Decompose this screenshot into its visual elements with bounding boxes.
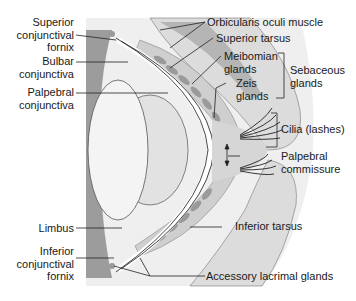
label-line: glands	[290, 77, 345, 90]
label-line: Superior tarsus	[216, 32, 291, 45]
label-line: commissure	[281, 163, 340, 176]
label-meibomian-glands: Meibomian glands	[224, 50, 278, 75]
label-line: conjunctival	[17, 258, 74, 271]
label-sebaceous-glands: Sebaceous glands	[290, 64, 345, 89]
label-line: Palpebral	[281, 150, 340, 163]
label-line: Superior	[17, 16, 74, 29]
label-cilia: Cilia (lashes)	[281, 123, 345, 136]
label-line: fornix	[17, 270, 74, 283]
label-line: Sebaceous	[290, 64, 345, 77]
label-line: conjunctiva	[19, 99, 74, 112]
label-line: Bulbar	[19, 55, 74, 68]
label-line: glands	[236, 90, 268, 103]
label-palpebral-conjunctiva: Palpebral conjunctiva	[19, 86, 74, 111]
label-line: Palpebral	[19, 86, 74, 99]
label-line: Accessory lacrimal glands	[206, 270, 333, 283]
label-line: conjunctival	[17, 29, 74, 42]
label-accessory-lacrimal-glands: Accessory lacrimal glands	[206, 270, 333, 283]
label-line: Zeis	[236, 77, 268, 90]
label-orbicularis-oculi-muscle: Orbicularis oculi muscle	[207, 16, 323, 29]
label-line: Inferior tarsus	[235, 220, 302, 233]
label-superior-conjunctival-fornix: Superior conjunctival fornix	[17, 16, 74, 54]
label-line: Inferior	[17, 245, 74, 258]
label-palpebral-commissure: Palpebral commissure	[281, 150, 340, 175]
label-line: Limbus	[39, 222, 74, 235]
label-line: conjunctiva	[19, 68, 74, 81]
label-line: Meibomian	[224, 50, 278, 63]
label-line: fornix	[17, 41, 74, 54]
label-line: Orbicularis oculi muscle	[207, 16, 323, 29]
label-line: Cilia (lashes)	[281, 123, 345, 136]
label-inferior-conjunctival-fornix: Inferior conjunctival fornix	[17, 245, 74, 283]
label-bulbar-conjunctiva: Bulbar conjunctiva	[19, 55, 74, 80]
label-limbus: Limbus	[39, 222, 74, 235]
label-inferior-tarsus: Inferior tarsus	[235, 220, 302, 233]
label-line: glands	[224, 63, 278, 76]
label-superior-tarsus: Superior tarsus	[216, 32, 291, 45]
label-zeis-glands: Zeis glands	[236, 77, 268, 102]
